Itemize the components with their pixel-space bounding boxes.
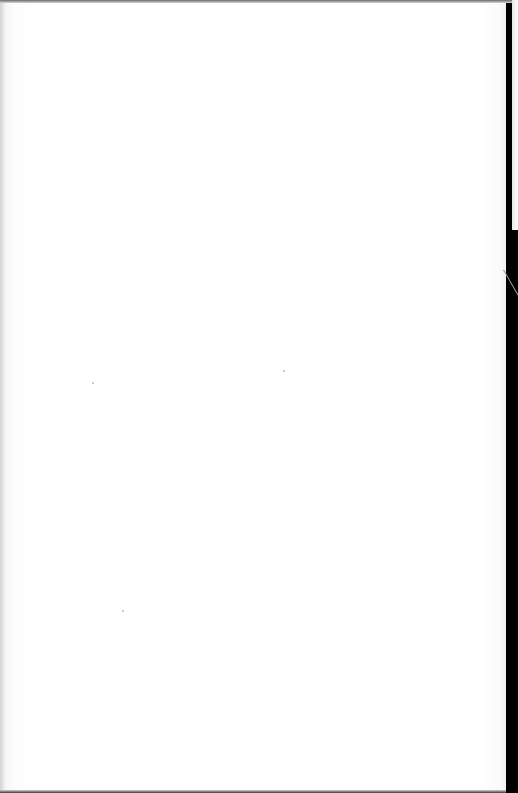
blank-paper-sheet [0,1,506,791]
top-scan-border [0,0,518,3]
left-edge-shadow [0,0,5,793]
scanned-page [0,0,518,793]
dust-speck [92,382,94,384]
dust-speck [283,370,285,372]
right-scan-border [506,230,518,793]
dust-speck [122,610,124,612]
right-edge-shadow [512,0,518,240]
